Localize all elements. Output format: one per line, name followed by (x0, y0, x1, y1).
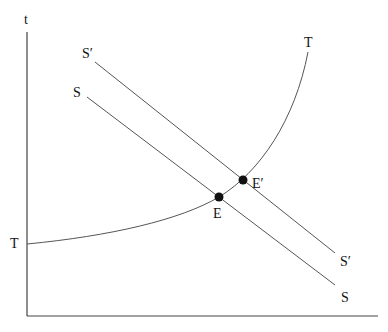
t-curve (27, 52, 308, 244)
s-line (87, 97, 335, 285)
s-prime-label-top: S′ (82, 46, 93, 61)
s-prime-line (95, 62, 335, 253)
point-e (215, 193, 224, 202)
y-axis-label: t (24, 12, 28, 27)
s-label-top: S (73, 85, 81, 100)
t-curve-label-left: T (10, 236, 19, 251)
point-e-prime-label: E′ (252, 176, 264, 191)
t-curve-label-top: T (304, 35, 313, 50)
point-e-prime (239, 176, 248, 185)
diagram-canvas: t T T S′ S′ S S E E′ (0, 0, 388, 332)
s-label-bottom: S (341, 290, 349, 305)
s-prime-label-bottom: S′ (340, 254, 351, 269)
point-e-label: E (213, 206, 222, 221)
